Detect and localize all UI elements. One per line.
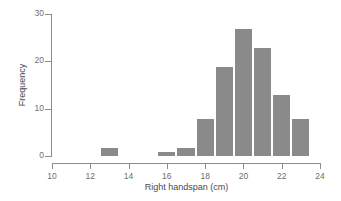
x-tick-label: 12: [75, 171, 105, 181]
histogram-bar: [272, 94, 291, 156]
x-tick-mark: [282, 163, 283, 169]
y-tick-mark: [45, 156, 51, 157]
histogram-bar: [157, 151, 176, 156]
x-tick-label: 20: [228, 171, 258, 181]
y-tick-mark: [45, 14, 51, 15]
histogram-bar: [196, 118, 215, 156]
x-axis-title: Right handspan (cm): [52, 182, 321, 193]
x-tick-mark: [129, 163, 130, 169]
x-tick-label: 10: [37, 171, 67, 181]
x-tick-label: 22: [267, 171, 297, 181]
plot-area: 0102030 1012141618202224 Frequency Right…: [0, 0, 341, 201]
histogram-bar: [253, 47, 272, 156]
x-tick-mark: [167, 163, 168, 169]
histogram-bar: [291, 118, 310, 156]
y-axis-line: [51, 14, 52, 157]
x-tick-mark: [243, 163, 244, 169]
x-tick-mark: [320, 163, 321, 169]
y-axis-title-text: Frequency: [17, 64, 27, 107]
x-tick-mark: [205, 163, 206, 169]
x-tick-label: 14: [114, 171, 144, 181]
histogram-figure: 0102030 1012141618202224 Frequency Right…: [0, 0, 341, 201]
y-axis-title: Frequency: [16, 40, 28, 130]
histogram-bar: [176, 147, 195, 156]
y-tick-label: 0: [20, 151, 44, 160]
y-tick-mark: [45, 109, 51, 110]
histogram-bar: [234, 28, 253, 156]
x-tick-mark: [90, 163, 91, 169]
x-axis-line: [52, 163, 321, 164]
x-tick-mark: [52, 163, 53, 169]
histogram-bar: [100, 147, 119, 156]
x-tick-label: 24: [305, 171, 335, 181]
y-tick-label: 30: [20, 9, 44, 18]
histogram-bar: [215, 66, 234, 156]
x-tick-label: 18: [190, 171, 220, 181]
y-tick-mark: [45, 61, 51, 62]
x-tick-label: 16: [152, 171, 182, 181]
